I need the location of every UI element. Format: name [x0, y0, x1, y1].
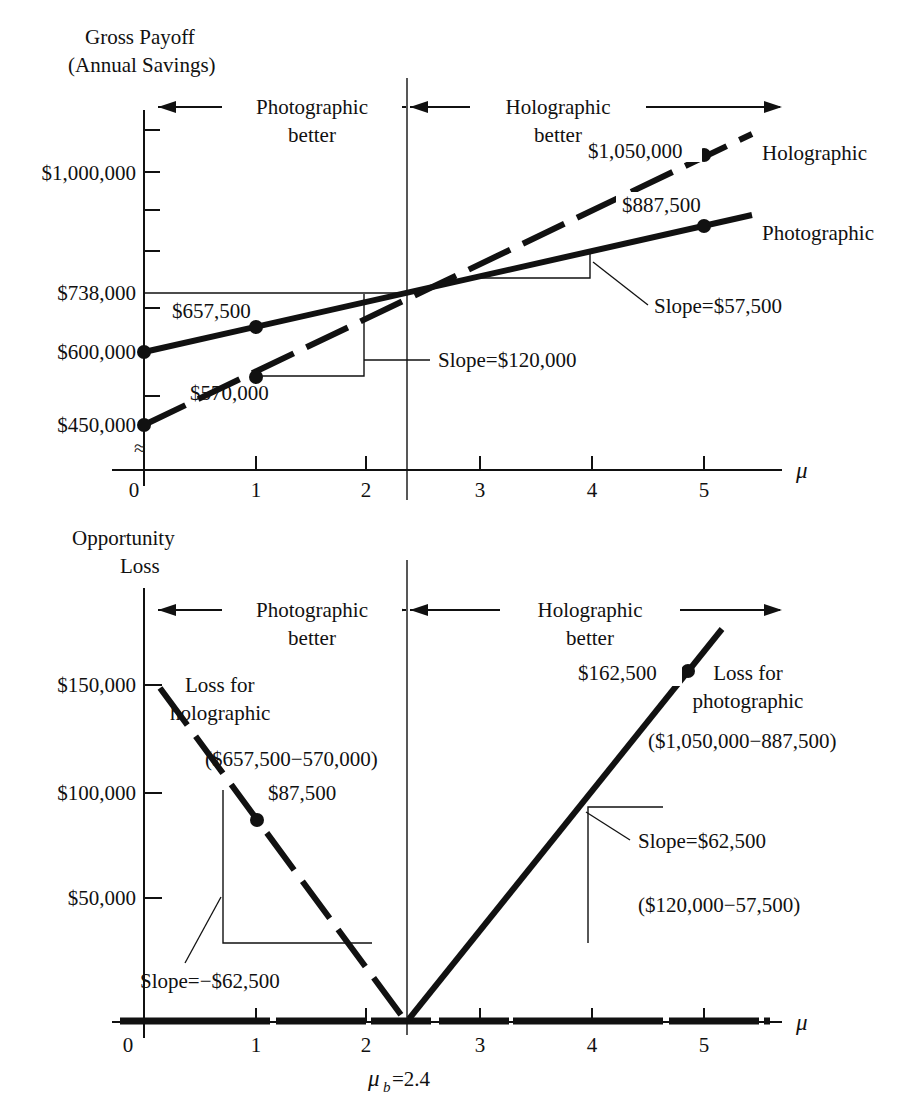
arrow-left-icon	[158, 604, 176, 616]
lower-slope-label-right: Slope=$62,500	[638, 829, 766, 853]
lower-slope-triangle-right	[588, 807, 663, 943]
upper-marker-holographic-0	[137, 418, 151, 432]
upper-x-label-4: 4	[587, 478, 598, 502]
upper-point-label-holographic-5: $1,050,000	[588, 139, 683, 163]
lower-x-label-2: 2	[361, 1033, 372, 1057]
lower-chart: Opportunity Loss $150,000 $100,000 $50,0…	[57, 526, 836, 1095]
upper-region-right-line1: Holographic	[506, 95, 611, 119]
lower-y-label-100000: $100,000	[57, 781, 136, 805]
arrow-right-icon	[764, 604, 782, 616]
lower-point-label-162500: $162,500	[578, 661, 657, 685]
breakeven-mu-value: =2.4	[392, 1067, 431, 1091]
lower-region-right-line1: Holographic	[538, 598, 643, 622]
upper-y-label-600000: $600,000	[57, 340, 136, 364]
upper-y-label-1000000: $1,000,000	[42, 161, 137, 185]
breakeven-mu-symbol: μ	[367, 1066, 380, 1091]
upper-slope-label-photographic: Slope=$57,500	[654, 294, 782, 318]
arrow-left-icon	[410, 101, 428, 113]
upper-x-label-2: 2	[361, 478, 372, 502]
arrow-left-icon	[410, 604, 428, 616]
lower-loss-holographic-line1: Loss for	[185, 673, 254, 697]
upper-region-left-line1: Photographic	[256, 95, 368, 119]
upper-y-label-450000: $450,000	[57, 413, 136, 437]
lower-chart-title-line2: Loss	[120, 554, 160, 578]
upper-x-axis-label: μ	[795, 458, 808, 483]
lower-slope-leader-right	[586, 812, 630, 840]
lower-marker-87500	[250, 813, 264, 827]
lower-y-label-50000: $50,000	[68, 886, 136, 910]
upper-marker-photographic-1	[249, 320, 263, 334]
lower-region-right-line2: better	[566, 626, 614, 650]
figure-container: Gross Payoff (Annual Savings) ≈ $1,000,0…	[0, 0, 920, 1112]
lower-y-label-0: 0	[123, 1033, 134, 1057]
lower-loss-holographic-line2: holographic	[170, 701, 270, 725]
lower-x-label-1: 1	[251, 1033, 262, 1057]
upper-series-label-photographic: Photographic	[762, 221, 874, 245]
upper-slope-label-holographic: Slope=$120,000	[438, 348, 576, 372]
upper-x-label-1: 1	[251, 478, 262, 502]
lower-y-label-150000: $150,000	[57, 673, 136, 697]
arrow-left-icon	[158, 101, 176, 113]
upper-point-label-photographic-1: $657,500	[172, 299, 251, 323]
lower-x-label-4: 4	[587, 1033, 598, 1057]
upper-x-label-0: 0	[129, 478, 140, 502]
lower-slope-label-left: Slope=−$62,500	[140, 969, 280, 993]
lower-chart-title-line1: Opportunity	[72, 526, 175, 550]
breakeven-mu-subscript: b	[383, 1079, 391, 1095]
upper-point-label-holographic-1: $570,000	[190, 381, 269, 405]
lower-marker-162500	[681, 664, 695, 678]
lower-slope-triangle-left	[223, 790, 372, 943]
lower-diff-holographic: ($657,500−570,000)	[205, 747, 378, 771]
lower-slope-detail-right: ($120,000−57,500)	[638, 893, 800, 917]
upper-marker-photographic-5	[697, 219, 711, 233]
lower-series-loss-photographic	[409, 629, 722, 1019]
lower-loss-photographic-line2: photographic	[693, 689, 804, 713]
lower-region-left-line2: better	[288, 626, 336, 650]
lower-loss-photographic-line1: Loss for	[713, 661, 782, 685]
upper-chart: Gross Payoff (Annual Savings) ≈ $1,000,0…	[42, 25, 874, 502]
upper-x-label-5: 5	[699, 478, 710, 502]
upper-series-label-holographic: Holographic	[762, 141, 867, 165]
upper-chart-title-line1: Gross Payoff	[85, 25, 195, 49]
lower-x-label-5: 5	[699, 1033, 710, 1057]
upper-region-left-line2: better	[288, 123, 336, 147]
lower-diff-photographic: ($1,050,000−887,500)	[648, 729, 837, 753]
arrow-right-icon	[764, 101, 782, 113]
upper-slope-leader-photographic	[593, 262, 648, 305]
lower-x-axis-label: μ	[795, 1010, 808, 1035]
lower-slope-leader-left	[185, 897, 221, 963]
lower-region-left-line1: Photographic	[256, 598, 368, 622]
lower-x-label-3: 3	[475, 1033, 486, 1057]
upper-region-right-line2: better	[534, 123, 582, 147]
economic-comparison-figure: Gross Payoff (Annual Savings) ≈ $1,000,0…	[0, 0, 920, 1112]
lower-point-label-87500: $87,500	[268, 781, 336, 805]
axis-break-icon: ≈	[134, 436, 146, 460]
upper-y-label-738000: $738,000	[57, 281, 136, 305]
upper-point-label-photographic-5: $887,500	[622, 193, 701, 217]
upper-marker-photographic-0	[137, 345, 151, 359]
upper-series-photographic	[144, 215, 752, 352]
upper-x-label-3: 3	[475, 478, 486, 502]
upper-chart-title-line2: (Annual Savings)	[68, 53, 216, 77]
